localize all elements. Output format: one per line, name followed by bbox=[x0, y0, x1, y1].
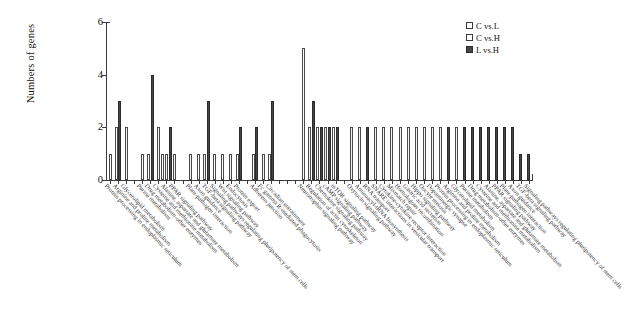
legend-item[interactable]: C vs.L bbox=[466, 20, 544, 31]
bar-group bbox=[420, 22, 428, 180]
bar bbox=[271, 101, 274, 180]
bar-group bbox=[348, 22, 356, 180]
bar bbox=[157, 127, 160, 180]
bar bbox=[332, 127, 335, 180]
legend-item[interactable]: L vs.H bbox=[466, 44, 544, 55]
bar bbox=[118, 101, 121, 180]
bar-group bbox=[235, 22, 243, 180]
bar bbox=[165, 154, 168, 180]
bar-group bbox=[130, 22, 138, 180]
y-axis-title: Numbers of genes bbox=[25, 0, 36, 144]
legend-label: C vs.L bbox=[476, 21, 499, 31]
legend-item[interactable]: C vs.H bbox=[466, 32, 544, 43]
bar-group bbox=[243, 22, 251, 180]
bar-group bbox=[114, 22, 122, 180]
bar-group bbox=[138, 22, 146, 180]
bar bbox=[316, 127, 319, 180]
bar bbox=[495, 127, 498, 180]
bar bbox=[312, 101, 315, 180]
bar bbox=[511, 127, 514, 180]
bar-group bbox=[203, 22, 211, 180]
bar bbox=[471, 127, 474, 180]
bar bbox=[390, 127, 393, 180]
bar-group bbox=[251, 22, 259, 180]
bar bbox=[399, 127, 402, 180]
bar bbox=[221, 154, 224, 180]
bar bbox=[189, 154, 192, 180]
chart-legend: C vs.LC vs.HL vs.H bbox=[466, 20, 544, 56]
bar-group bbox=[388, 22, 396, 180]
y-tick-label: 4 bbox=[98, 68, 103, 81]
bar-group bbox=[340, 22, 348, 180]
bar-group bbox=[364, 22, 372, 180]
bar bbox=[308, 127, 311, 180]
bar bbox=[374, 127, 377, 180]
bar-group bbox=[324, 22, 332, 180]
bar bbox=[141, 154, 144, 180]
bar-group bbox=[146, 22, 154, 180]
bar-group bbox=[307, 22, 315, 180]
bar bbox=[252, 154, 255, 180]
bar bbox=[407, 127, 410, 180]
bar-group bbox=[380, 22, 388, 180]
bar bbox=[125, 127, 128, 180]
bar-group bbox=[299, 22, 307, 180]
bar-group bbox=[396, 22, 404, 180]
bar bbox=[487, 127, 490, 180]
bar bbox=[197, 154, 200, 180]
bar bbox=[415, 127, 418, 180]
bar-group bbox=[332, 22, 340, 180]
bar bbox=[109, 154, 112, 180]
bar bbox=[358, 127, 361, 180]
bar bbox=[479, 127, 482, 180]
legend-swatch-icon bbox=[466, 22, 473, 29]
bar-group bbox=[267, 22, 275, 180]
bar bbox=[423, 127, 426, 180]
bar-group bbox=[195, 22, 203, 180]
legend-swatch-icon bbox=[466, 34, 473, 41]
bar bbox=[503, 127, 506, 180]
bar bbox=[382, 127, 385, 180]
y-tick-label: 0 bbox=[98, 173, 103, 186]
bar bbox=[366, 127, 369, 180]
y-tick-label: 6 bbox=[98, 15, 103, 28]
bar bbox=[320, 127, 323, 180]
bar bbox=[455, 127, 458, 180]
bar bbox=[236, 154, 239, 180]
bar-group bbox=[259, 22, 267, 180]
bar-group bbox=[179, 22, 187, 180]
bar-group bbox=[444, 22, 452, 180]
bar bbox=[207, 101, 210, 180]
bar-group bbox=[404, 22, 412, 180]
bar bbox=[173, 154, 176, 180]
bar bbox=[328, 127, 331, 180]
bar bbox=[161, 154, 164, 180]
bar-group bbox=[227, 22, 235, 180]
bar bbox=[439, 127, 442, 180]
bar-group bbox=[452, 22, 460, 180]
bar bbox=[147, 154, 150, 180]
bar bbox=[350, 127, 353, 180]
bar bbox=[151, 75, 154, 180]
bar bbox=[229, 154, 232, 180]
bar-group bbox=[122, 22, 130, 180]
bar-group bbox=[275, 22, 283, 180]
y-tick-label: 2 bbox=[98, 120, 103, 133]
bar-group bbox=[187, 22, 195, 180]
bar-group bbox=[315, 22, 323, 180]
bar-group bbox=[162, 22, 170, 180]
bar-group bbox=[412, 22, 420, 180]
bar bbox=[255, 127, 258, 180]
bar bbox=[463, 127, 466, 180]
bar-group bbox=[219, 22, 227, 180]
bar bbox=[213, 154, 216, 180]
bar bbox=[203, 154, 206, 180]
bar bbox=[302, 48, 305, 180]
bar-group bbox=[436, 22, 444, 180]
bar-group bbox=[283, 22, 291, 180]
bar bbox=[447, 127, 450, 180]
bar bbox=[519, 154, 522, 180]
bar bbox=[336, 127, 339, 180]
bar-group bbox=[211, 22, 219, 180]
bar bbox=[324, 127, 327, 180]
